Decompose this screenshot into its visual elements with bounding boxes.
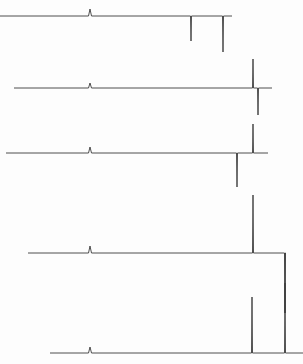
spectrum-trace: [6, 124, 268, 187]
spectrum-trace: [50, 283, 303, 353]
spectrum-trace: [28, 195, 286, 313]
spectra-figure: [0, 0, 303, 364]
spectra-canvas: [0, 0, 303, 364]
spectrum-trace: [14, 59, 272, 115]
spectrum-trace: [0, 9, 232, 52]
trace-group: [0, 9, 303, 353]
